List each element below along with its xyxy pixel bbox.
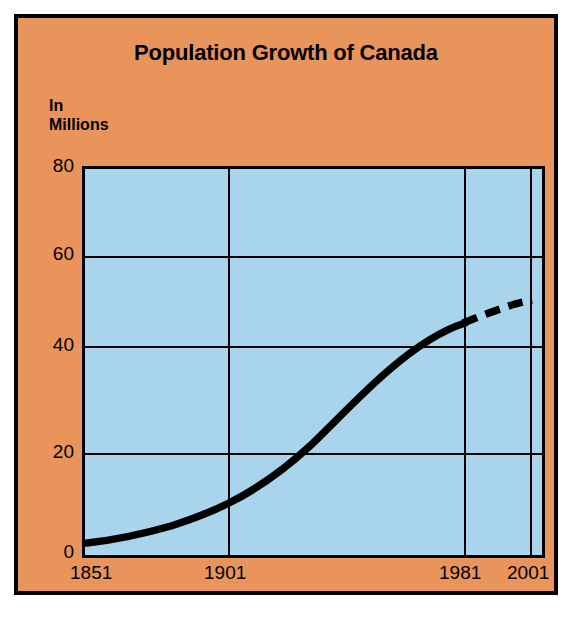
x-tick-label-1901: 1901 — [204, 562, 246, 584]
y-tick-label-0: 0 — [30, 541, 74, 563]
population-line-dashed — [463, 300, 532, 323]
chart-figure: Population Growth of Canada In Millions … — [0, 0, 574, 617]
y-tick-label-80: 80 — [30, 155, 74, 177]
population-line-solid — [87, 323, 465, 543]
y-axis-unit-caption: In Millions — [49, 96, 109, 134]
chart-panel: Population Growth of Canada In Millions … — [14, 14, 558, 595]
y-tick-label-60: 60 — [30, 243, 74, 265]
x-tick-label-1981: 1981 — [439, 562, 481, 584]
vertical-gridlines — [229, 169, 531, 555]
horizontal-gridlines — [85, 257, 542, 454]
x-tick-label-2001: 2001 — [507, 562, 549, 584]
y-axis-unit-line-1: In — [49, 96, 109, 115]
y-tick-label-40: 40 — [30, 334, 74, 356]
y-axis-unit-line-2: Millions — [49, 115, 109, 134]
y-tick-label-20: 20 — [30, 441, 74, 463]
x-tick-label-1851: 1851 — [70, 562, 112, 584]
plot-canvas — [85, 169, 542, 555]
plot-area — [82, 166, 545, 558]
chart-title: Population Growth of Canada — [18, 40, 554, 66]
